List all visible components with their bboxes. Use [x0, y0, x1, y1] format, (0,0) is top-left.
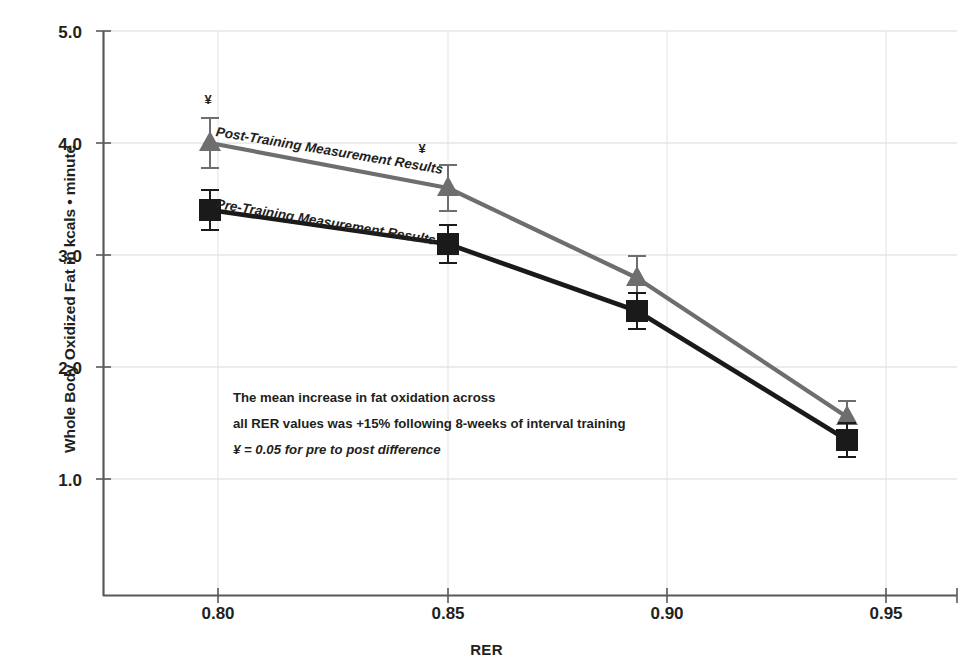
annotation-line: The mean increase in fat oxidation acros…	[233, 391, 625, 404]
axis-lines	[103, 31, 957, 596]
annotation-line: all RER values was +15% following 8-week…	[233, 417, 625, 430]
series-post-training-markers	[199, 131, 858, 425]
series-post-training-line	[210, 143, 847, 417]
significance-marker: ¥	[412, 141, 432, 156]
annotation-block: The mean increase in fat oxidation acros…	[233, 391, 625, 470]
vertical-gridlines	[218, 31, 886, 596]
annotation-line-significance: ¥ = 0.05 for pre to post difference	[233, 443, 625, 456]
significance-marker: ¥	[198, 92, 218, 107]
chart-figure: Whole Body Oxidized Fat in kcals • minut…	[0, 0, 973, 672]
plot-area	[0, 0, 973, 672]
